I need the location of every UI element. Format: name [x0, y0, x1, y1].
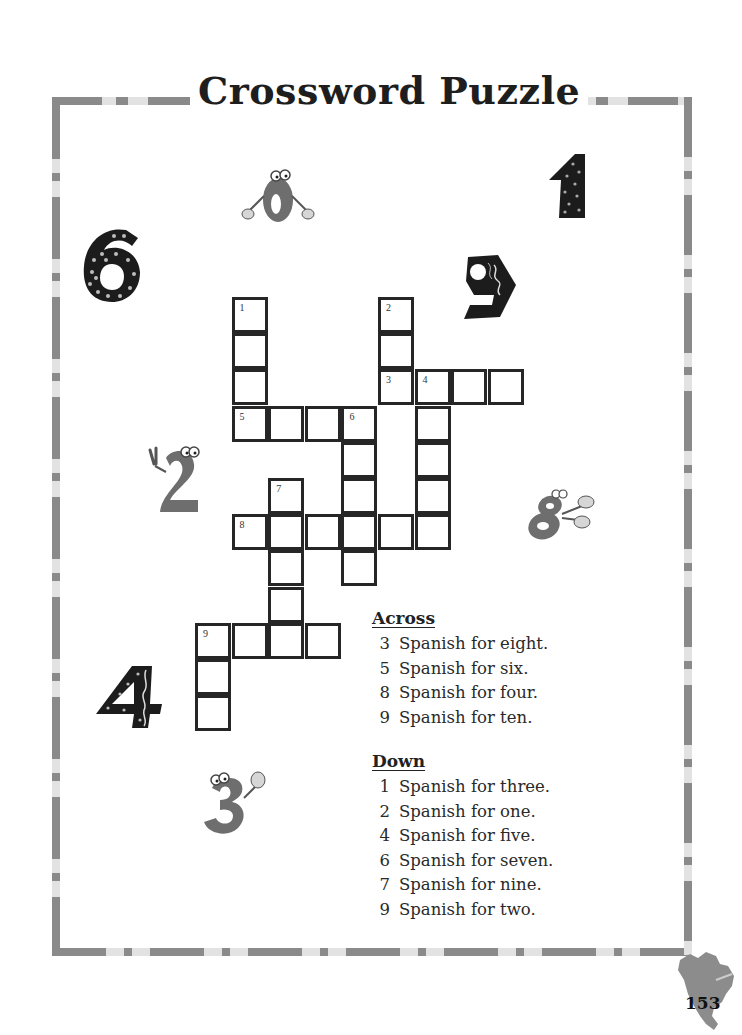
crossword-cell[interactable]: [415, 478, 451, 514]
crossword-cell[interactable]: [268, 550, 304, 586]
north-america-map-icon: [676, 950, 738, 1032]
number-two-cartoon-icon: [142, 442, 206, 519]
clue-text: Spanish for five.: [399, 826, 535, 845]
clue-number: 1: [374, 775, 390, 800]
crossword-cell[interactable]: [341, 514, 377, 550]
clue-number: 3: [374, 632, 390, 657]
cell-number: 6: [349, 411, 354, 422]
crossword-cell[interactable]: [268, 587, 304, 623]
number-three-cartoon-icon: [198, 766, 268, 841]
across-clue-3: 3Spanish for eight.: [372, 632, 548, 657]
number-six-dotted-icon: [80, 226, 144, 317]
across-clue-8: 8Spanish for four.: [372, 681, 548, 706]
cell-number: 8: [240, 519, 245, 530]
across-clue-9: 9Spanish for ten.: [372, 706, 548, 731]
crossword-cell[interactable]: [415, 514, 451, 550]
number-eight-cartoon-icon: [526, 488, 600, 547]
title-container: Crossword Puzzle: [190, 66, 588, 116]
clue-number: 2: [374, 800, 390, 825]
crossword-cell[interactable]: [268, 514, 304, 550]
down-clues: Down 1Spanish for three. 2Spanish for on…: [372, 751, 553, 922]
crossword-cell[interactable]: [341, 442, 377, 478]
crossword-cell[interactable]: 8: [232, 514, 268, 550]
crossword-cell[interactable]: [415, 442, 451, 478]
down-clue-1: 1Spanish for three.: [372, 775, 553, 800]
crossword-cell[interactable]: [232, 369, 268, 405]
number-four-dotted-icon: [94, 664, 166, 733]
crossword-cell[interactable]: [232, 623, 268, 659]
down-clue-4: 4Spanish for five.: [372, 824, 553, 849]
clue-number: 4: [374, 824, 390, 849]
number-nine-striped-icon: [460, 255, 518, 324]
crossword-cell[interactable]: 3: [378, 369, 414, 405]
crossword-cell[interactable]: 2: [378, 297, 414, 333]
clue-text: Spanish for one.: [399, 802, 536, 821]
cell-number: 7: [276, 483, 281, 494]
across-heading: Across: [372, 608, 548, 628]
number-zero-cartoon-icon: [240, 166, 316, 231]
number-one-dotted-icon: [547, 152, 587, 225]
cell-number: 9: [203, 628, 208, 639]
down-clue-2: 2Spanish for one.: [372, 800, 553, 825]
crossword-cell[interactable]: 1: [232, 297, 268, 333]
down-clue-6: 6Spanish for seven.: [372, 849, 553, 874]
page-border-bottom: [52, 948, 692, 956]
cell-number: 5: [240, 411, 245, 422]
crossword-cell[interactable]: 9: [195, 623, 231, 659]
clue-text: Spanish for three.: [399, 777, 550, 796]
crossword-cell[interactable]: [305, 514, 341, 550]
cell-number: 2: [386, 302, 391, 313]
crossword-cell[interactable]: [305, 623, 341, 659]
clue-number: 8: [374, 681, 390, 706]
clue-number: 9: [374, 706, 390, 731]
crossword-cell[interactable]: [378, 333, 414, 369]
page-title: Crossword Puzzle: [198, 66, 580, 116]
crossword-cell[interactable]: [195, 659, 231, 695]
clue-number: 6: [374, 849, 390, 874]
crossword-cell[interactable]: [488, 369, 524, 405]
crossword-cell[interactable]: [195, 695, 231, 731]
crossword-cell[interactable]: [232, 333, 268, 369]
down-heading: Down: [372, 751, 553, 771]
down-clue-9: 9Spanish for two.: [372, 898, 553, 923]
page-border-left: [52, 97, 60, 956]
crossword-cell[interactable]: [341, 550, 377, 586]
crossword-cell[interactable]: [378, 514, 414, 550]
crossword-cell[interactable]: 5: [232, 406, 268, 442]
down-clue-7: 7Spanish for nine.: [372, 873, 553, 898]
across-clues: Across 3Spanish for eight. 5Spanish for …: [372, 608, 548, 730]
clue-number: 9: [374, 898, 390, 923]
clue-text: Spanish for ten.: [399, 708, 532, 727]
cell-number: 3: [386, 374, 391, 385]
across-clue-5: 5Spanish for six.: [372, 657, 548, 682]
clue-text: Spanish for eight.: [399, 634, 548, 653]
clue-text: Spanish for seven.: [399, 851, 553, 870]
crossword-cell[interactable]: 4: [415, 369, 451, 405]
crossword-cell[interactable]: 6: [341, 406, 377, 442]
clue-text: Spanish for six.: [399, 659, 528, 678]
crossword-cell[interactable]: [305, 406, 341, 442]
clue-text: Spanish for two.: [399, 900, 536, 919]
crossword-cell[interactable]: [268, 406, 304, 442]
clue-number: 7: [374, 873, 390, 898]
cell-number: 4: [423, 374, 428, 385]
crossword-cell[interactable]: [341, 478, 377, 514]
crossword-cell[interactable]: [415, 406, 451, 442]
page-border-right: [684, 97, 692, 956]
clue-text: Spanish for nine.: [399, 875, 542, 894]
cell-number: 1: [240, 302, 245, 313]
crossword-cell[interactable]: 7: [268, 478, 304, 514]
clue-text: Spanish for four.: [399, 683, 538, 702]
crossword-cell[interactable]: [451, 369, 487, 405]
crossword-cell[interactable]: [268, 623, 304, 659]
clue-number: 5: [374, 657, 390, 682]
page-number: 153: [685, 993, 721, 1013]
